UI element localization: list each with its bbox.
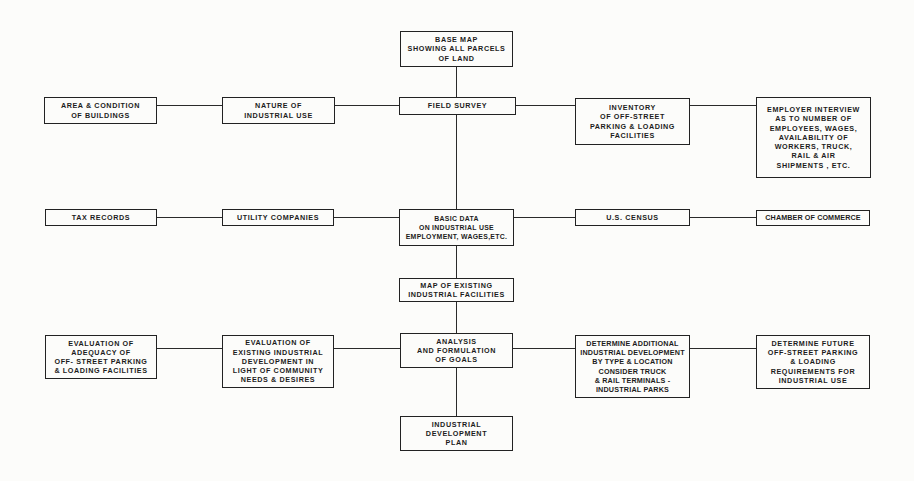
box-tax-records: TAX RECORDS — [45, 209, 157, 226]
box-map-existing: MAP OF EXISTING INDUSTRIAL FACILITIES — [399, 278, 514, 302]
connector-basic-census — [513, 217, 575, 218]
connector-field-inventory — [516, 105, 575, 106]
box-determine-additional: DETERMINE ADDITIONAL INDUSTRIAL DEVELOPM… — [575, 335, 690, 398]
connector-additional-future — [690, 348, 756, 349]
connector-area-nature — [156, 105, 222, 106]
connector-adequacy-existing — [157, 348, 222, 349]
box-eval-existing: EVALUATION OF EXISTING INDUSTRIAL DEVELO… — [222, 335, 334, 388]
box-area-condition: AREA & CONDITION OF BUILDINGS — [44, 97, 157, 124]
box-eval-adequacy: EVALUATION OF ADEQUACY OF OFF- STREET PA… — [45, 335, 157, 379]
box-analysis: ANALYSIS AND FORMULATION OF GOALS — [400, 333, 513, 368]
box-us-census: U.S. CENSUS — [575, 209, 690, 226]
connector-utility-basic — [334, 217, 399, 218]
box-field-survey: FIELD SURVEY — [399, 97, 516, 115]
connector-tax-utility — [157, 217, 222, 218]
box-determine-future: DETERMINE FUTURE OFF-STREET PARKING & LO… — [756, 335, 870, 389]
box-employer-interview: EMPLOYER INTERVIEW AS TO NUMBER OF EMPLO… — [756, 97, 871, 178]
box-utility-companies: UTILITY COMPANIES — [222, 209, 334, 226]
box-inventory: INVENTORY OF OFF-STREET PARKING & LOADIN… — [575, 98, 690, 145]
box-nature-use: NATURE OF INDUSTRIAL USE — [222, 97, 335, 124]
box-base-map: BASE MAP SHOWING ALL PARCELS OF LAND — [400, 31, 513, 67]
box-basic-data: BASIC DATA ON INDUSTRIAL USE EMPLOYMENT,… — [399, 209, 514, 246]
connector-inventory-employer — [690, 105, 756, 106]
connector-analysis-additional — [513, 348, 575, 349]
box-industrial-development-plan: INDUSTRIAL DEVELOPMENT PLAN — [400, 416, 513, 451]
connector-existing-analysis — [334, 348, 400, 349]
connector-census-chamber — [690, 217, 756, 218]
box-chamber-commerce: CHAMBER OF COMMERCE — [756, 210, 870, 226]
connector-nature-field — [334, 105, 399, 106]
